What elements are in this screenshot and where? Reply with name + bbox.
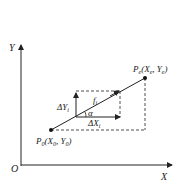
start-point-dot [49, 128, 53, 132]
angle-arc [85, 112, 86, 117]
end-point-label: Pe(Xe, Ye) [132, 64, 168, 75]
delta-y-label: ΔYi [56, 102, 69, 113]
interpolation-diagram: Y O X P0(X0, Y0) Pe(Xe, Ye) fi ΔYi ΔXi α [0, 0, 183, 186]
origin-label: O [11, 163, 18, 174]
end-point-dot [143, 76, 147, 80]
y-axis-label: Y [9, 42, 16, 53]
start-point-label: P0(X0, Y0) [35, 136, 72, 147]
x-axis-label: X [160, 171, 168, 182]
vector-fi-label: fi [93, 95, 98, 106]
delta-x-label: ΔXi [87, 118, 101, 129]
angle-alpha-label: α [88, 108, 93, 118]
